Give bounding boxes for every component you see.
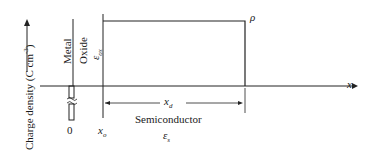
oxide-permittivity: εox [89,49,104,60]
xd-label: xd [164,95,172,110]
semiconductor-label: Semiconductor [135,113,202,125]
charge-density-profile [103,21,245,86]
x-axis-arrowhead [352,83,358,89]
semiconductor-permittivity: εs [163,129,170,144]
rho-label: ρ [250,11,255,23]
xd-right-arrowhead [238,101,243,105]
break-symbol [67,98,77,105]
xo-label: xo [98,124,106,139]
zero-label: 0 [67,124,73,136]
y-axis-label: Charge density (C cm-3) [22,44,35,150]
x-axis-label: x [347,78,352,90]
y-axis-arrowhead [24,19,30,26]
oxide-label: Oxide [77,37,89,64]
mos-charge-diagram [0,0,365,164]
metal-charge-bar-bottom [69,104,74,120]
metal-label: Metal [61,38,73,64]
xd-left-arrowhead [105,101,110,105]
metal-charge-bar-top [69,86,74,98]
